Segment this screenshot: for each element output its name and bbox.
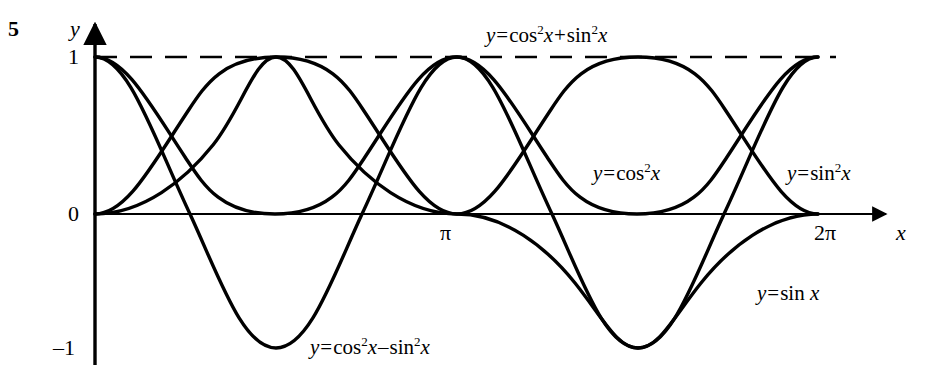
identity-var1: x bbox=[544, 23, 553, 47]
curve-cos-squared bbox=[95, 57, 818, 214]
sine-var: x bbox=[810, 281, 819, 305]
y-axis-label: y bbox=[70, 18, 80, 40]
curve-label-sine: y=sin x bbox=[757, 283, 819, 304]
double-angle-base2: sin bbox=[390, 335, 415, 359]
y-tick-label-0: 0 bbox=[68, 203, 79, 225]
sine-base: sin bbox=[780, 281, 805, 305]
curve-double-angle bbox=[95, 57, 818, 348]
identity-lhs: y bbox=[486, 23, 495, 47]
identity-eq: = bbox=[495, 23, 509, 47]
plot-area bbox=[0, 0, 941, 376]
sin-squared-eq: = bbox=[796, 161, 810, 185]
double-angle-op: – bbox=[377, 335, 390, 359]
double-angle-eq: = bbox=[319, 335, 333, 359]
cos-squared-base: cos bbox=[616, 161, 644, 185]
curve-label-cos-squared: y=cos2x bbox=[593, 163, 660, 184]
curve-label-sin-squared: y=sin2x bbox=[787, 163, 851, 184]
x-tick-label-pi: π bbox=[440, 222, 451, 244]
x-tick-label-2pi: 2π bbox=[814, 222, 836, 244]
curve-label-double-angle: y=cos2x–sin2x bbox=[310, 337, 430, 358]
question-number: 5 bbox=[8, 18, 19, 40]
y-tick-label-minus-1: –1 bbox=[53, 337, 75, 359]
identity-base2: sin bbox=[567, 23, 592, 47]
sin-squared-lhs: y bbox=[787, 161, 796, 185]
double-angle-lhs: y bbox=[310, 335, 319, 359]
sin-squared-var: x bbox=[841, 161, 850, 185]
double-angle-base1: cos bbox=[333, 335, 361, 359]
curve-sine bbox=[95, 57, 818, 348]
y-tick-label-1: 1 bbox=[68, 46, 79, 68]
sine-lhs: y bbox=[757, 281, 766, 305]
trig-identity-figure: 5 y x 1 0 –1 π 2π y=cos2x+sin2x y=cos2x … bbox=[0, 0, 941, 376]
cos-squared-var: x bbox=[651, 161, 660, 185]
x-axis-label: x bbox=[896, 222, 906, 244]
identity-base1: cos bbox=[509, 23, 537, 47]
curve-sin-squared bbox=[95, 57, 818, 214]
cos-squared-lhs: y bbox=[593, 161, 602, 185]
identity-var2: x bbox=[598, 23, 607, 47]
sin-squared-base: sin bbox=[810, 161, 835, 185]
double-angle-var2: x bbox=[421, 335, 430, 359]
identity-op: + bbox=[553, 23, 567, 47]
curve-label-identity: y=cos2x+sin2x bbox=[486, 25, 607, 46]
cos-squared-eq: = bbox=[602, 161, 616, 185]
sine-eq: = bbox=[766, 281, 780, 305]
double-angle-var1: x bbox=[368, 335, 377, 359]
